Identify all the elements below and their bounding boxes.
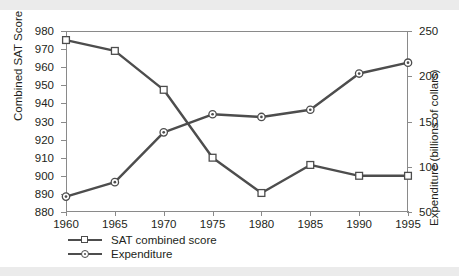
y-axis-left-tick-label: 900 <box>35 170 54 182</box>
y-axis-left-tick-label: 920 <box>35 134 54 146</box>
legend-marker-square-icon <box>68 234 102 246</box>
x-axis-tick-label: 1970 <box>151 218 177 230</box>
chart-legend: SAT combined score Expenditure <box>68 233 217 261</box>
y-axis-right-tick-label: 50 <box>419 206 432 218</box>
data-point-marker <box>209 154 216 161</box>
bottom-edge-band <box>0 267 459 276</box>
data-point-marker <box>160 86 167 93</box>
data-point-marker-dot <box>211 113 214 116</box>
legend-item-expenditure: Expenditure <box>68 247 217 261</box>
data-point-marker <box>405 172 412 179</box>
y-axis-left-tick-label: 940 <box>35 97 54 109</box>
x-axis-tick-label: 1965 <box>102 218 128 230</box>
data-point-marker <box>307 162 314 169</box>
data-point-marker-dot <box>407 61 410 64</box>
chart-figure: Combined SAT Score Expenditure (billions… <box>0 0 459 276</box>
top-edge-band <box>0 0 459 10</box>
legend-marker-circle-icon <box>68 248 102 260</box>
data-point-marker-dot <box>309 108 312 111</box>
y-axis-title-right: Expenditure (billions of collars) <box>428 69 440 226</box>
y-axis-left-tick-label: 910 <box>35 152 54 164</box>
y-axis-title-left: Combined SAT Score <box>12 11 24 121</box>
data-point-marker-dot <box>358 72 361 75</box>
y-axis-left-tick-label: 930 <box>35 116 54 128</box>
data-point-marker-dot <box>162 131 165 134</box>
data-point-marker-dot <box>65 195 68 198</box>
y-axis-right-tick-label: 100 <box>419 161 438 173</box>
data-point-marker <box>111 48 118 55</box>
data-point-marker <box>356 172 363 179</box>
x-axis-tick-label: 1975 <box>200 218 226 230</box>
legend-label-expenditure: Expenditure <box>111 248 172 260</box>
x-axis-tick <box>408 211 409 216</box>
series-container <box>66 31 408 212</box>
x-axis-tick-label: 1960 <box>53 218 79 230</box>
y-axis-right-tick-label: 200 <box>419 70 438 82</box>
y-axis-left-tick-label: 880 <box>35 206 54 218</box>
x-axis-tick-label: 1985 <box>297 218 323 230</box>
y-axis-right-tick-label: 150 <box>419 116 438 128</box>
x-axis-tick-label: 1980 <box>249 218 275 230</box>
plot-area: 8808909009109209309409509609709805010015… <box>66 31 408 212</box>
y-axis-left-tick-label: 970 <box>35 43 54 55</box>
x-axis-tick-label: 1995 <box>395 218 421 230</box>
x-axis-tick-label: 1990 <box>346 218 372 230</box>
data-point-marker <box>258 190 265 197</box>
data-point-marker-dot <box>114 181 117 184</box>
y-axis-left-tick-label: 980 <box>35 25 54 37</box>
y-axis-left-tick-label: 890 <box>35 188 54 200</box>
y-axis-left-tick-label: 960 <box>35 61 54 73</box>
legend-label-sat: SAT combined score <box>111 234 217 246</box>
legend-item-sat: SAT combined score <box>68 233 217 247</box>
y-axis-left-tick-label: 950 <box>35 79 54 91</box>
data-point-marker <box>63 37 70 44</box>
y-axis-right-tick-label: 250 <box>419 25 438 37</box>
data-point-marker-dot <box>260 116 263 119</box>
